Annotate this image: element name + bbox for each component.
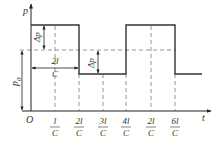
delta-p-lower-label: Δp (86, 58, 96, 69)
pressure-waveform (31, 25, 202, 74)
x-tick-5: 2l C (146, 116, 156, 138)
delta-p-upper-label: Δp (32, 32, 42, 43)
x-tick-1: l C (50, 116, 60, 138)
x-tick-2: 2l C (74, 116, 84, 138)
tick-numerator: 2l (75, 116, 83, 126)
tick-numerator: 3l (98, 116, 107, 126)
period-numerator: 2l (51, 56, 59, 66)
x-tick-4: 4l C (121, 116, 131, 138)
tick-numerator: l (54, 116, 57, 126)
tick-numerator: 6l (171, 116, 179, 126)
tick-denominator: C (148, 128, 155, 138)
period-denominator: C (52, 69, 59, 79)
tick-denominator: C (172, 128, 179, 138)
pressure-time-diagram: p t O Δp Δp 2l C p 0 l C 2l C 3l C 4l (0, 0, 220, 147)
tick-denominator: C (52, 128, 59, 138)
axes (22, 4, 211, 111)
p0-label-sub: 0 (15, 77, 23, 81)
x-tick-6: 6l C (170, 116, 180, 138)
p0-label: p 0 (9, 77, 23, 87)
tick-denominator: C (100, 128, 107, 138)
origin-label: O (26, 114, 33, 125)
tick-denominator: C (76, 128, 83, 138)
x-tick-labels: l C 2l C 3l C 4l C 2l C 6l C (50, 116, 180, 138)
tick-numerator: 2l (147, 116, 155, 126)
tick-denominator: C (123, 128, 130, 138)
x-axis-label: t (202, 112, 205, 123)
period-label: 2l C (51, 56, 59, 79)
y-axis-label: p (22, 5, 28, 16)
tick-numerator: 4l (122, 116, 130, 126)
x-tick-3: 3l C (98, 116, 108, 138)
